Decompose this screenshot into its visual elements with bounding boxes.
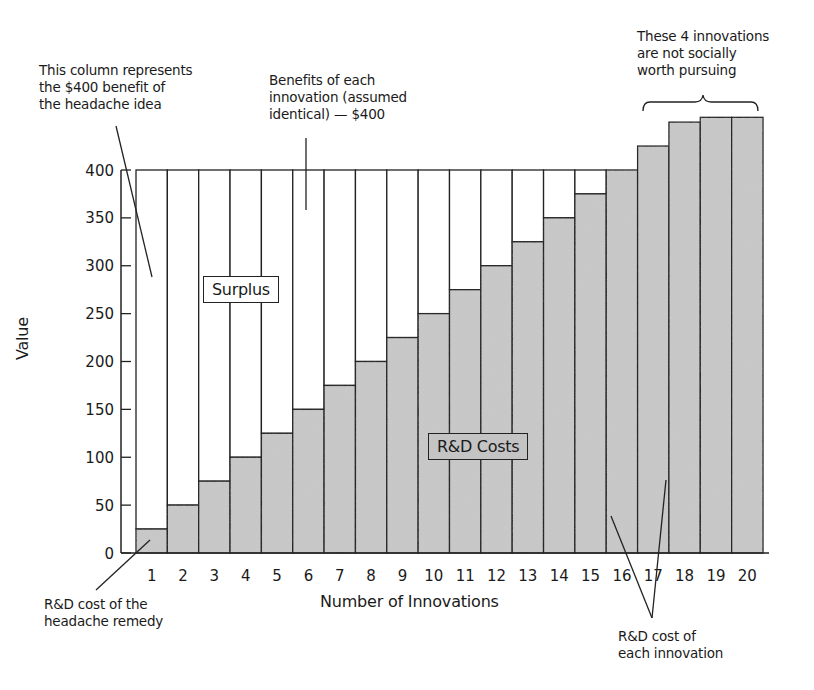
bar-16 bbox=[606, 170, 637, 553]
y-tick-label: 50 bbox=[95, 497, 114, 515]
y-tick-label: 100 bbox=[85, 449, 114, 467]
cost-texture bbox=[167, 505, 198, 553]
benefit-note: Benefits of each innovation (assumed ide… bbox=[269, 72, 407, 123]
x-tick-label: 6 bbox=[304, 567, 314, 585]
benefit-segment bbox=[230, 170, 261, 457]
y-axis-label: Value bbox=[14, 317, 31, 360]
benefit-segment bbox=[387, 170, 418, 338]
cost-texture bbox=[199, 481, 230, 553]
x-tick-label: 8 bbox=[366, 567, 376, 585]
bar-11 bbox=[450, 170, 481, 553]
x-tick-label: 16 bbox=[612, 567, 631, 585]
column-note: This column represents the $400 benefit … bbox=[39, 62, 192, 113]
cost-texture bbox=[324, 385, 355, 553]
benefit-segment bbox=[418, 170, 449, 314]
cost-texture bbox=[700, 117, 731, 553]
bar-6 bbox=[293, 170, 324, 553]
bar-4 bbox=[230, 170, 261, 553]
benefit-segment bbox=[199, 170, 230, 481]
cost-texture bbox=[512, 242, 543, 553]
x-tick-label: 4 bbox=[241, 567, 251, 585]
x-tick-label: 2 bbox=[178, 567, 188, 585]
bar-15 bbox=[575, 170, 606, 553]
cost-texture bbox=[293, 409, 324, 553]
x-tick-label: 15 bbox=[581, 567, 600, 585]
x-tick-label: 19 bbox=[706, 567, 725, 585]
bar-19 bbox=[700, 117, 731, 553]
x-tick-label: 20 bbox=[738, 567, 757, 585]
bar-9 bbox=[387, 170, 418, 553]
benefit-segment bbox=[293, 170, 324, 409]
cost-texture bbox=[230, 457, 261, 553]
x-tick-label: 11 bbox=[456, 567, 475, 585]
x-tick-label: 13 bbox=[518, 567, 537, 585]
benefit-segment bbox=[575, 170, 606, 194]
cost-texture bbox=[387, 338, 418, 553]
not-worth-note: These 4 innovations are not socially wor… bbox=[637, 28, 769, 79]
y-tick-label: 250 bbox=[85, 305, 114, 323]
bar-18 bbox=[669, 122, 700, 553]
x-tick-label: 9 bbox=[398, 567, 408, 585]
bar-20 bbox=[732, 117, 763, 553]
x-axis-label: Number of Innovations bbox=[320, 593, 499, 610]
bar-14 bbox=[544, 170, 575, 553]
bar-8 bbox=[355, 170, 386, 553]
x-tick-label: 18 bbox=[675, 567, 694, 585]
x-tick-label: 3 bbox=[210, 567, 220, 585]
headache-cost-note: R&D cost of the headache remedy bbox=[44, 596, 163, 630]
bar-12 bbox=[481, 170, 512, 553]
y-tick-label: 350 bbox=[85, 209, 114, 227]
benefit-segment bbox=[167, 170, 198, 505]
brace-icon bbox=[643, 95, 758, 111]
cost-texture bbox=[544, 218, 575, 553]
x-tick-label: 14 bbox=[550, 567, 569, 585]
surplus-label: Surplus bbox=[203, 276, 279, 303]
bar-2 bbox=[167, 170, 198, 553]
cost-texture bbox=[450, 290, 481, 553]
bar-7 bbox=[324, 170, 355, 553]
cost-texture bbox=[669, 122, 700, 553]
cost-texture bbox=[606, 170, 637, 553]
y-tick-label: 200 bbox=[85, 353, 114, 371]
x-tick-label: 17 bbox=[644, 567, 663, 585]
bar-3 bbox=[199, 170, 230, 553]
bar-10 bbox=[418, 170, 449, 553]
y-tick-label: 0 bbox=[104, 545, 114, 563]
x-tick-label: 1 bbox=[147, 567, 157, 585]
bar-5 bbox=[261, 170, 292, 553]
y-tick-label: 150 bbox=[85, 401, 114, 419]
benefit-segment bbox=[355, 170, 386, 362]
y-tick-label: 300 bbox=[85, 257, 114, 275]
benefit-segment bbox=[136, 170, 167, 529]
x-tick-label: 10 bbox=[424, 567, 443, 585]
cost-texture bbox=[481, 266, 512, 553]
bars-group bbox=[136, 117, 763, 553]
benefit-segment bbox=[481, 170, 512, 266]
benefit-segment bbox=[324, 170, 355, 385]
cost-texture bbox=[575, 194, 606, 553]
bar-13 bbox=[512, 170, 543, 553]
benefit-segment bbox=[544, 170, 575, 218]
x-tick-label: 5 bbox=[272, 567, 282, 585]
y-tick-label: 400 bbox=[85, 162, 114, 180]
each-cost-note: R&D cost of each innovation bbox=[618, 628, 723, 662]
cost-texture bbox=[261, 433, 292, 553]
cost-texture bbox=[732, 117, 763, 553]
rd-costs-label: R&D Costs bbox=[428, 433, 528, 460]
benefit-segment bbox=[512, 170, 543, 242]
x-tick-label: 12 bbox=[487, 567, 506, 585]
cost-texture bbox=[355, 362, 386, 554]
benefit-segment bbox=[450, 170, 481, 290]
x-tick-label: 7 bbox=[335, 567, 345, 585]
